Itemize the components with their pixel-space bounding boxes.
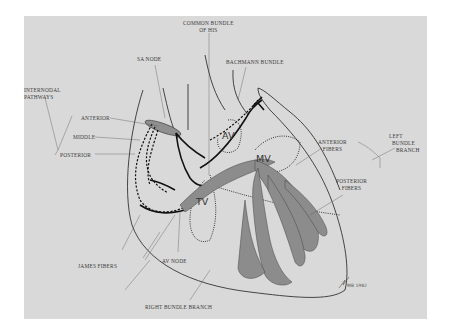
label-right-bundle-branch: RIGHT BUNDLE BRANCH xyxy=(145,304,212,311)
label-av-node: AV NODE xyxy=(162,258,187,265)
label-line: PATHWAYS xyxy=(24,94,61,101)
label-middle-pathway: MIDDLE xyxy=(73,134,95,141)
label-common-bundle-of-his: COMMON BUNDLE OF HIS xyxy=(183,20,234,34)
heart-conduction-diagram xyxy=(0,0,449,335)
artist-signature: MB 1982 xyxy=(347,283,367,288)
label-line: FIBERS xyxy=(336,185,367,192)
label-left-bundle-branch: LEFT BUNDLE BRANCH xyxy=(389,133,420,154)
label-sa-node: SA NODE xyxy=(137,56,161,63)
label-line: ANTERIOR xyxy=(318,139,347,146)
chamber-label-tv: TV xyxy=(196,196,208,207)
chamber-label-mv: MV xyxy=(256,153,271,164)
label-line: LEFT xyxy=(389,133,420,140)
bundle-fibers xyxy=(180,159,327,285)
label-anterior-fibers: ANTERIOR FIBERS xyxy=(318,139,347,153)
label-line: COMMON BUNDLE xyxy=(183,20,234,27)
label-james-fibers: JAMES FIBERS xyxy=(78,263,117,270)
label-internodal-pathways: INTERNODAL PATHWAYS xyxy=(24,87,61,101)
label-line: INTERNODAL xyxy=(24,87,61,94)
label-line: BRANCH xyxy=(389,147,420,154)
label-line: BUNDLE xyxy=(389,140,420,147)
label-bachmann-bundle: BACHMANN BUNDLE xyxy=(226,59,284,66)
label-anterior-pathway: ANTERIOR xyxy=(81,115,110,122)
label-posterior-fibers: POSTERIOR FIBERS xyxy=(336,178,367,192)
label-line: POSTERIOR xyxy=(336,178,367,185)
label-line: OF HIS xyxy=(183,27,234,34)
chamber-label-av: AV xyxy=(222,130,234,141)
label-line: FIBERS xyxy=(318,146,347,153)
leader-lines xyxy=(45,33,395,300)
label-posterior-pathway: POSTERIOR xyxy=(60,152,91,159)
